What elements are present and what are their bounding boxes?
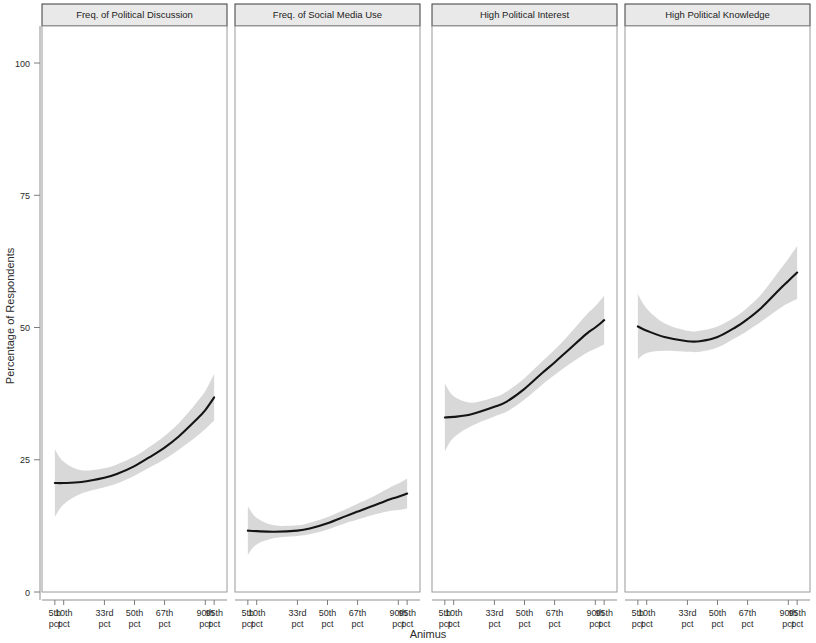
x-tick-label-unit: pct <box>711 619 724 629</box>
x-tick-label-ordinal: 50th <box>319 608 337 618</box>
x-tick-label-ordinal: 10th <box>638 608 656 618</box>
x-tick-label-ordinal: 95th <box>788 608 806 618</box>
panels-group: Freq. of Political Discussion5thpct10thp… <box>42 4 810 629</box>
facet-panel: Freq. of Political Discussion5thpct10thp… <box>42 4 227 629</box>
x-tick-label-unit: pct <box>208 619 221 629</box>
x-tick-label-ordinal: 33rd <box>485 608 503 618</box>
x-tick-label-unit: pct <box>128 619 141 629</box>
x-tick-label-ordinal: 67th <box>546 608 564 618</box>
x-tick-label-ordinal: 50th <box>709 608 727 618</box>
x-tick-label-ordinal: 67th <box>156 608 174 618</box>
x-tick-label-unit: pct <box>681 619 694 629</box>
chart-figure: Percentage of Respondents 0255075100 Fre… <box>0 0 816 643</box>
x-tick-label-unit: pct <box>488 619 501 629</box>
x-tick-label-ordinal: 10th <box>445 608 463 618</box>
x-tick-label-ordinal: 33rd <box>288 608 306 618</box>
x-tick-label-ordinal: 10th <box>248 608 266 618</box>
x-tick-label-unit: pct <box>791 619 804 629</box>
panel-strip-label: Freq. of Political Discussion <box>76 9 193 20</box>
x-tick-label-ordinal: 67th <box>739 608 757 618</box>
y-tick-label: 100 <box>15 59 30 69</box>
x-tick-label-ordinal: 10th <box>55 608 73 618</box>
y-axis-title: Percentage of Respondents <box>4 247 16 384</box>
x-tick-label-ordinal: 50th <box>516 608 534 618</box>
x-axis-title-group: Animus <box>410 628 447 640</box>
y-tick-label: 50 <box>20 323 30 333</box>
x-tick-label-unit: pct <box>641 619 654 629</box>
panel-strip-label: High Political Knowledge <box>665 9 770 20</box>
y-tick-label: 0 <box>25 588 30 598</box>
x-tick-label-unit: pct <box>321 619 334 629</box>
facet-panel: High Political Interest5thpct10thpct33rd… <box>432 4 617 629</box>
panel-strip-label: High Political Interest <box>480 9 570 20</box>
x-tick-label-ordinal: 33rd <box>678 608 696 618</box>
x-tick-label-unit: pct <box>159 619 172 629</box>
x-tick-label-unit: pct <box>352 619 365 629</box>
x-tick-label-unit: pct <box>549 619 562 629</box>
x-tick-label-ordinal: 33rd <box>95 608 113 618</box>
y-tick-label: 75 <box>20 191 30 201</box>
y-tick-label: 25 <box>20 455 30 465</box>
panel-strip-label: Freq. of Social Media Use <box>273 9 382 20</box>
x-tick-label-ordinal: 67th <box>349 608 367 618</box>
panel-frame <box>625 26 810 592</box>
facet-panel: High Political Knowledge5thpct10thpct33r… <box>625 4 810 629</box>
panel-frame <box>432 26 617 592</box>
x-tick-label-ordinal: 95th <box>205 608 223 618</box>
x-tick-label-unit: pct <box>98 619 111 629</box>
facet-panel: Freq. of Social Media Use5thpct10thpct33… <box>235 4 420 629</box>
x-tick-label-unit: pct <box>598 619 611 629</box>
x-tick-label-unit: pct <box>291 619 304 629</box>
x-axis-title: Animus <box>410 628 447 640</box>
y-axis-title-group: Percentage of Respondents <box>4 247 16 384</box>
x-tick-label-unit: pct <box>251 619 264 629</box>
x-tick-label-ordinal: 95th <box>595 608 613 618</box>
facet-line-chart-svg: Percentage of Respondents 0255075100 Fre… <box>0 0 816 643</box>
x-tick-label-ordinal: 50th <box>126 608 144 618</box>
x-tick-label-unit: pct <box>518 619 531 629</box>
x-tick-label-unit: pct <box>58 619 71 629</box>
x-tick-label-ordinal: 95th <box>398 608 416 618</box>
panel-frame <box>42 26 227 592</box>
y-axis-group: 0255075100 <box>15 26 40 600</box>
x-tick-label-unit: pct <box>742 619 755 629</box>
x-tick-label-unit: pct <box>448 619 461 629</box>
